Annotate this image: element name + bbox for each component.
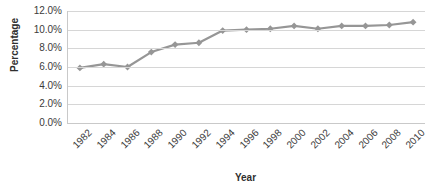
x-axis-tick-labels: 1982198419861988199019921994199619982000…: [0, 0, 431, 193]
line-chart: Percentage 12.0%10.0%8.0%6.0%4.0%2.0%0.0…: [0, 0, 431, 193]
x-axis-title: Year: [67, 172, 424, 183]
